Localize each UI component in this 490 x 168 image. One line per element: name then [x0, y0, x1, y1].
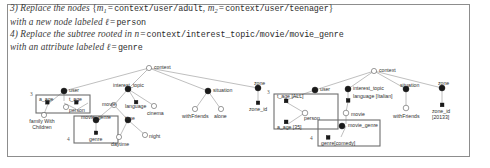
rule4-path: context/interest_topic/movie/movie_genre: [147, 30, 344, 40]
label-daytime-left: daytime: [111, 141, 129, 147]
rule3-m2: m: [208, 3, 215, 13]
right-mark-4: 4: [310, 135, 313, 141]
rule4b-eq: =: [111, 42, 118, 52]
rule-line-4: 4) Replace the subtree rooted in n=conte…: [10, 29, 465, 42]
node-situation-left: [205, 88, 211, 94]
node-movie-genre-right: [339, 123, 345, 129]
label-interest-topic-left: interest_topic: [113, 82, 144, 88]
tree-diagram-area: .e { stroke:#8a8a8a; stroke-width:.55; f…: [8, 58, 469, 156]
rule3-close-brace: }: [329, 3, 334, 13]
rule3-prefix: 3) Replace the nodes: [10, 3, 92, 13]
label-person-right: person: [304, 115, 320, 121]
label-movie-genre-right: movie_genre: [348, 122, 378, 128]
rule3-path2: context/user/teenager: [225, 4, 328, 14]
node-person-left: [63, 104, 68, 109]
node-withfriends-right: [403, 105, 409, 111]
label-situation-left: situation: [213, 87, 232, 93]
node-cinema-left: [151, 103, 156, 108]
label-user-right: user: [320, 86, 330, 92]
rule3-path1: context/user/adult: [114, 4, 203, 14]
label-t-age-right: t_age [ALL]: [277, 93, 304, 99]
label-movie-genre-left: movie_genre: [81, 114, 111, 120]
node-genre-right: [326, 136, 330, 140]
node-t-age-right: [284, 99, 288, 103]
figure-root: 3) Replace the nodes {m1=context/user/ad…: [0, 0, 490, 168]
node-zone-id-left: [256, 101, 260, 105]
rule-text-block: 3) Replace the nodes {m1=context/user/ad…: [10, 3, 465, 54]
label-context-left: context: [154, 64, 171, 70]
rule4b-prefix: with an attribute labeled: [10, 42, 107, 52]
rule4b-ell: ℓ: [107, 42, 111, 52]
rule-line-4-cont: with an attribute labeled ℓ=genre: [10, 42, 465, 55]
rule3b-value: person: [116, 18, 146, 28]
label-movie-right: movie: [351, 111, 365, 117]
node-context-right: [371, 68, 376, 73]
label-withfriends-right: withFriends: [393, 113, 420, 119]
label-movie-left: movie: [102, 101, 116, 107]
label-zone-right: zone: [438, 80, 449, 86]
node-withfriends-left: [192, 106, 197, 111]
label-a-age-left: a_age: [39, 96, 53, 102]
node-daytime-left: [116, 134, 121, 139]
rule-line-3: 3) Replace the nodes {m1=context/user/ad…: [10, 3, 465, 17]
node-movie-right: [343, 110, 349, 116]
rule4-eq: =: [139, 29, 146, 39]
label-language-left: language: [125, 103, 146, 109]
rule3b-prefix: with a new node labeled: [10, 17, 105, 27]
label-interest-topic-right: interest_topic: [353, 85, 384, 91]
right-mark-3: 3: [267, 89, 270, 95]
node-genre-left: [94, 131, 98, 135]
rule4-prefix: 4) Replace the subtree rooted in: [10, 29, 134, 39]
node-user-left: [61, 88, 67, 94]
node-zone-id-right: [440, 103, 444, 107]
node-night-left: [142, 132, 147, 137]
label-context-right: context: [379, 67, 396, 73]
label-alone-left: alone: [214, 113, 227, 119]
label-zone-id-left: zone_id: [249, 106, 267, 112]
left-mark-3: 3: [30, 91, 33, 97]
label-zone-left: zone: [254, 80, 265, 86]
label-t-age-left: t_age: [69, 96, 82, 102]
label-family-with-children-left: family With Children: [29, 118, 55, 130]
label-zone-id-right-line2: [20133]: [432, 114, 449, 120]
label-night-left: night: [149, 133, 160, 139]
node-context-left: [146, 65, 151, 70]
label-withfriends-left: withFriends: [182, 113, 209, 119]
node-user-right: [312, 87, 318, 93]
label-person-left: person: [69, 107, 85, 113]
rule-line-3-cont: with a new node labeled ℓ=person: [10, 17, 465, 30]
label-time-left: time: [125, 115, 135, 121]
label-genre-right: genre[comedy]: [321, 140, 355, 146]
left-mark-4: 4: [67, 136, 70, 142]
label-genre-left: genre: [89, 136, 102, 142]
label-user-left: user: [69, 87, 79, 93]
label-a-age-right: a_age [35]: [277, 124, 302, 130]
node-interest-topic-right: [345, 86, 351, 92]
label-cinema-left: cinema: [147, 110, 164, 116]
label-situation-right: situation: [400, 82, 419, 88]
label-language-right: language [Italian]: [353, 93, 393, 99]
rule4b-value: genre: [118, 43, 143, 53]
node-language-right: [346, 99, 350, 103]
node-family-with-children-left: [41, 112, 46, 117]
node-alone-left: [218, 106, 223, 111]
rule3-m1: m: [97, 3, 104, 13]
